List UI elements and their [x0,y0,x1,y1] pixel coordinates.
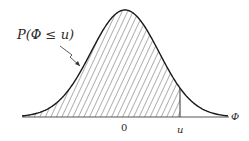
normal-curve-diagram [0,0,249,141]
axis-phi-label: Φ [231,112,239,122]
u-label: u [177,125,183,135]
origin-label: 0 [121,123,127,133]
probability-label: P(Φ ≤ u) [17,28,74,41]
